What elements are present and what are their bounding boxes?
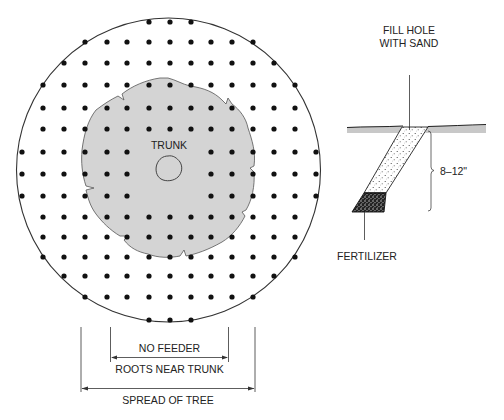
fertilizer-hole-dot (313, 193, 318, 198)
fertilizer-hole-dot (188, 214, 193, 219)
fertilizer-hole-dot (40, 254, 45, 259)
fertilizer-hole-dot (208, 234, 213, 239)
fertilizer-hole-dot (167, 60, 172, 65)
fertilizer-hole-dot (124, 105, 129, 110)
fertilizer-hole-dot (61, 105, 66, 110)
fertilizer-hole-dot (82, 171, 87, 176)
fertilizer-hole-dot (208, 82, 213, 87)
fertilizer-hole-dot (124, 234, 129, 239)
fertilizer-hole-dot (188, 19, 193, 24)
fertilizer-hole-dot (250, 254, 255, 259)
fertilizer-hole-dot (82, 254, 87, 259)
fertilizer-hole-dot (82, 105, 87, 110)
fertilizer-hole-dot (146, 294, 151, 299)
fertilizer-hole-dot (146, 19, 151, 24)
fertilizer-hole-dot (124, 193, 129, 198)
fertilizer-hole-dot (146, 39, 151, 44)
fertilizer-hole-dot (82, 294, 87, 299)
fertilizer-hole-dot (104, 214, 109, 219)
section-view (347, 75, 486, 240)
fertilizer-hole-dot (188, 126, 193, 131)
fertilizer-hole-dot (188, 60, 193, 65)
fertilizer-hole-dot (271, 254, 276, 259)
fertilizer-hole-dot (250, 234, 255, 239)
fertilizer-hole-dot (188, 254, 193, 259)
fertilizer-hole-dot (229, 39, 234, 44)
fertilizer-hole-dot (82, 273, 87, 278)
fertilizer-hole-dot (40, 214, 45, 219)
fertilizer-hole-dot (61, 234, 66, 239)
plan-view: TRUNK (17, 18, 321, 323)
tree-fertilizing-diagram: TRUNK NO FEEDER ROOTS NEAR TRUNK SPREAD … (0, 0, 504, 420)
fertilizer-hole-dot (229, 193, 234, 198)
fertilizer-hole-dot (250, 39, 255, 44)
fertilizer-hole-dot (104, 294, 109, 299)
sand-filled-hole (364, 127, 428, 193)
fertilizer-hole-dot (208, 214, 213, 219)
fertilizer-hole-dot (146, 234, 151, 239)
fertilizer-hole-dot (292, 82, 297, 87)
fertilizer-hole-dot (61, 60, 66, 65)
fertilizer-hole-dot (124, 60, 129, 65)
trunk-label: TRUNK (151, 139, 187, 151)
fill-hole-label-line1: FILL HOLE (383, 24, 435, 36)
fertilizer-hole-dot (124, 254, 129, 259)
fertilizer-hole-dot (188, 234, 193, 239)
fertilizer-hole-dot (124, 82, 129, 87)
fertilizer-hole-dot (104, 273, 109, 278)
fertilizer-hole-dot (188, 39, 193, 44)
fertilizer-hole-dot (188, 317, 193, 322)
fill-hole-label-line2: WITH SAND (380, 37, 439, 49)
fertilizer-hole-dot (19, 171, 24, 176)
fertilizer-hole-dot (19, 193, 24, 198)
fertilizer-hole-dot (124, 171, 129, 176)
fertilizer-hole-dot (250, 273, 255, 278)
fertilizer-hole-dot (146, 254, 151, 259)
fertilizer-hole-dot (146, 60, 151, 65)
fertilizer-hole-dot (292, 193, 297, 198)
fertilizer-hole-dot (250, 193, 255, 198)
fertilizer-hole-dot (271, 149, 276, 154)
fertilizer-hole-dot (104, 126, 109, 131)
fertilizer-hole-dot (188, 294, 193, 299)
fertilizer-hole-dot (146, 82, 151, 87)
fertilizer-hole-dot (229, 294, 234, 299)
fertilizer-hole-dot (229, 149, 234, 154)
fertilizer-hole-dot (167, 39, 172, 44)
fertilizer-hole-dot (208, 39, 213, 44)
fertilizer-hole-dot (61, 171, 66, 176)
fertilizer-hole-dot (292, 171, 297, 176)
fertilizer-hole-dot (61, 126, 66, 131)
fertilizer-hole-dot (188, 82, 193, 87)
fertilizer-hole-dot (313, 149, 318, 154)
fertilizer-layer (352, 193, 386, 212)
fertilizer-hole-dot (208, 149, 213, 154)
fertilizer-hole-dot (229, 234, 234, 239)
fertilizer-hole-dot (104, 60, 109, 65)
fertilizer-hole-dot (271, 82, 276, 87)
fertilizer-hole-dot (208, 193, 213, 198)
fertilizer-hole-dot (167, 317, 172, 322)
fertilizer-hole-dot (250, 126, 255, 131)
no-feeder-label: NO FEEDER (139, 342, 201, 354)
dimension-lines (81, 327, 255, 392)
fertilizer-hole-dot (271, 234, 276, 239)
fertilizer-hole-dot (104, 105, 109, 110)
fertilizer-hole-dot (40, 82, 45, 87)
fertilizer-hole-dot (146, 214, 151, 219)
fertilizer-hole-dot (104, 82, 109, 87)
fertilizer-hole-dot (292, 149, 297, 154)
fertilizer-hole-dot (82, 60, 87, 65)
fertilizer-hole-dot (208, 60, 213, 65)
fertilizer-hole-dot (229, 105, 234, 110)
fertilizer-hole-dot (61, 193, 66, 198)
fertilizer-hole-dot (229, 273, 234, 278)
fertilizer-hole-dot (104, 234, 109, 239)
fertilizer-hole-dot (167, 214, 172, 219)
fertilizer-hole-dot (292, 214, 297, 219)
fertilizer-hole-dot (82, 39, 87, 44)
fertilizer-hole-dot (61, 214, 66, 219)
fertilizer-hole-dot (82, 193, 87, 198)
fertilizer-hole-dot (229, 214, 234, 219)
no-feeder-root-zone (82, 78, 255, 257)
